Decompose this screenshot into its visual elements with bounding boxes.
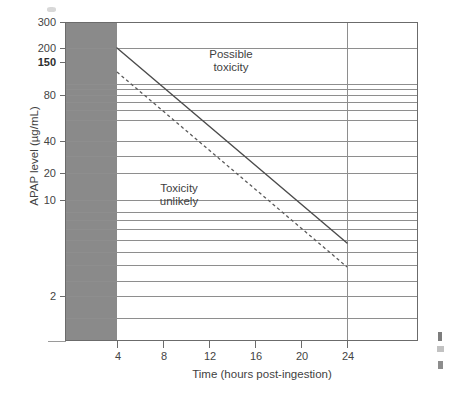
y-tick-label-300: 300 xyxy=(22,17,56,28)
annotation-possible-toxicity-line2: toxicity xyxy=(186,61,276,74)
page-edge-mark xyxy=(438,361,443,369)
x-tick-label-20: 20 xyxy=(289,351,315,362)
x-tick-label-8: 8 xyxy=(151,351,177,362)
annotation-toxicity-unlikely: Toxicity unlikely xyxy=(139,182,219,208)
shaded-no-data-band xyxy=(66,23,117,341)
x-tick-label-12: 12 xyxy=(197,351,223,362)
nomogram-figure: 300 200 150 80 40 20 10 2 4 8 12 16 20 2… xyxy=(0,0,452,398)
x-tick-label-4: 4 xyxy=(105,351,131,362)
y-tick-label-150: 150 xyxy=(22,57,56,68)
x-axis-title: Time (hours post-ingestion) xyxy=(112,368,412,380)
x-tick-label-24: 24 xyxy=(335,351,361,362)
x-axis-ticks xyxy=(118,341,348,348)
page-edge-mark xyxy=(437,346,444,352)
page-edge-artifacts xyxy=(436,330,452,390)
y-tick-label-2: 2 xyxy=(22,291,56,302)
annotation-toxicity-unlikely-line2: unlikely xyxy=(139,195,219,208)
y-axis-title: APAP level (µg/mL) xyxy=(28,86,40,226)
x-tick-label-16: 16 xyxy=(243,351,269,362)
annotation-toxicity-unlikely-line1: Toxicity xyxy=(160,182,198,194)
annotation-possible-toxicity: Possible toxicity xyxy=(186,48,276,74)
annotation-possible-toxicity-line1: Possible xyxy=(209,48,252,60)
y-tick-label-200: 200 xyxy=(22,43,56,54)
page-edge-mark xyxy=(438,332,442,341)
